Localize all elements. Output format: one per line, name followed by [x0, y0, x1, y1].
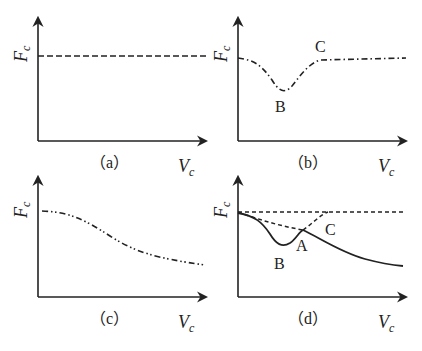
point-label-a: A [296, 237, 308, 254]
figure-canvas: Fc Vc （a） Fc Vc B C （b） Fc Vc （c） Fc Vc … [0, 0, 422, 351]
curve-solid [238, 213, 403, 266]
point-label-c: C [325, 221, 336, 238]
y-axis-label: Fc [211, 201, 233, 219]
y-axis-label: Fc [211, 45, 233, 63]
panel-caption: （c） [90, 310, 129, 327]
panel-b: Fc Vc B C （b） [211, 18, 406, 179]
panel-caption: （d） [288, 310, 328, 327]
point-label-b: B [274, 255, 285, 272]
x-axis-label: Vc [178, 156, 195, 179]
point-label-b: B [275, 98, 286, 115]
y-axis-label: Fc [11, 201, 33, 219]
panel-c: Fc Vc （c） [11, 177, 206, 335]
curve-dash-dot-dot [42, 211, 205, 265]
x-axis-label: Vc [378, 312, 395, 335]
panel-caption: （b） [288, 154, 328, 171]
panel-d: Fc Vc B A C （d） [211, 177, 406, 335]
x-axis-label: Vc [378, 156, 395, 179]
x-axis-label: Vc [178, 312, 195, 335]
curve-dash-dot [238, 58, 406, 91]
panel-caption: （a） [90, 154, 129, 171]
y-axis-label: Fc [11, 45, 33, 63]
panel-a: Fc Vc （a） [11, 18, 208, 179]
point-label-c: C [315, 38, 326, 55]
